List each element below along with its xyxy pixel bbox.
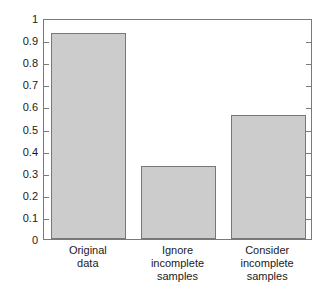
y-tick-mark-left-5 xyxy=(44,131,49,132)
y-tick-mark-left-8 xyxy=(44,64,49,65)
x-category-label-2-line-2: samples xyxy=(222,270,312,283)
y-tick-label-6: 0.6 xyxy=(23,102,38,113)
x-category-label-1-line-0: Ignore xyxy=(133,244,223,257)
y-tick-label-8: 0.8 xyxy=(23,58,38,69)
y-tick-label-1: 0.1 xyxy=(23,212,38,223)
y-tick-label-7: 0.7 xyxy=(23,80,38,91)
y-tick-mark-right-5 xyxy=(306,131,311,132)
y-tick-mark-right-9 xyxy=(306,42,311,43)
y-tick-mark-left-7 xyxy=(44,86,49,87)
x-category-label-0-line-0: Original xyxy=(43,244,133,257)
y-tick-mark-right-4 xyxy=(306,153,311,154)
x-category-label-2: Considerincompletesamples xyxy=(222,244,312,283)
y-tick-mark-left-6 xyxy=(44,108,49,109)
y-tick-mark-right-3 xyxy=(306,175,311,176)
y-tick-mark-right-1 xyxy=(306,219,311,220)
bar-2 xyxy=(231,115,306,239)
y-tick-mark-right-7 xyxy=(306,86,311,87)
y-tick-mark-left-2 xyxy=(44,197,49,198)
x-category-label-2-line-0: Consider xyxy=(222,244,312,257)
y-tick-label-3: 0.3 xyxy=(23,168,38,179)
y-tick-mark-right-8 xyxy=(306,64,311,65)
x-category-label-1-line-1: incomplete xyxy=(133,257,223,270)
bar-chart-figure: 00.10.20.30.40.50.60.70.80.91 Originalda… xyxy=(0,0,336,300)
y-tick-label-5: 0.5 xyxy=(23,124,38,135)
y-tick-mark-right-2 xyxy=(306,197,311,198)
x-category-label-0-line-1: data xyxy=(43,257,133,270)
y-tick-mark-right-6 xyxy=(306,108,311,109)
y-tick-label-0: 0 xyxy=(32,235,38,246)
x-category-label-1-line-2: samples xyxy=(133,270,223,283)
y-tick-mark-left-3 xyxy=(44,175,49,176)
x-category-label-0: Originaldata xyxy=(43,244,133,270)
y-tick-mark-left-4 xyxy=(44,153,49,154)
y-tick-label-10: 1 xyxy=(32,14,38,25)
y-tick-mark-left-1 xyxy=(44,219,49,220)
x-axis-category-labels: OriginaldataIgnoreincompletesamplesConsi… xyxy=(43,244,312,300)
y-axis-tick-labels: 00.10.20.30.40.50.60.70.80.91 xyxy=(0,19,38,240)
x-category-label-1: Ignoreincompletesamples xyxy=(133,244,223,283)
y-tick-label-9: 0.9 xyxy=(23,36,38,47)
bar-1 xyxy=(141,166,216,239)
y-tick-mark-left-9 xyxy=(44,42,49,43)
bar-0 xyxy=(51,33,126,239)
y-tick-label-2: 0.2 xyxy=(23,190,38,201)
x-category-label-2-line-1: incomplete xyxy=(222,257,312,270)
y-tick-label-4: 0.4 xyxy=(23,146,38,157)
plot-area xyxy=(43,19,312,240)
